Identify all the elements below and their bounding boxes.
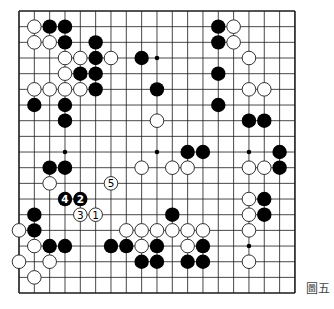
white-stone bbox=[242, 83, 256, 97]
white-stone bbox=[150, 224, 164, 238]
white-stone bbox=[74, 83, 88, 97]
white-stone bbox=[242, 208, 256, 222]
figure-caption: 圖五 bbox=[306, 279, 330, 296]
white-stone bbox=[242, 224, 256, 238]
black-stone bbox=[58, 98, 72, 112]
black-stone bbox=[73, 66, 87, 80]
black-stone bbox=[58, 239, 72, 253]
black-stone bbox=[211, 35, 225, 49]
white-stone bbox=[104, 51, 118, 65]
move-number: 2 bbox=[77, 193, 84, 205]
move-number: 3 bbox=[77, 209, 84, 221]
black-stone bbox=[196, 145, 210, 159]
white-stone bbox=[242, 255, 256, 269]
black-stone bbox=[88, 51, 102, 65]
star-point bbox=[155, 56, 160, 61]
white-stone bbox=[257, 161, 271, 175]
black-stone bbox=[211, 98, 225, 112]
black-stone bbox=[88, 35, 102, 49]
white-stone bbox=[135, 239, 149, 253]
white-stone bbox=[257, 83, 271, 97]
black-stone bbox=[58, 113, 72, 127]
white-stone bbox=[181, 239, 195, 253]
black-stone bbox=[42, 161, 56, 175]
black-stone bbox=[119, 239, 133, 253]
black-stone bbox=[165, 208, 179, 222]
star-point bbox=[63, 150, 68, 155]
white-stone bbox=[28, 36, 42, 50]
white-stone bbox=[135, 224, 149, 238]
white-stone bbox=[166, 161, 180, 175]
black-stone bbox=[58, 35, 72, 49]
white-stone bbox=[58, 83, 72, 97]
white-stone bbox=[28, 239, 42, 253]
black-stone bbox=[272, 145, 286, 159]
white-stone bbox=[227, 36, 241, 50]
black-stone bbox=[134, 255, 148, 269]
black-stone bbox=[150, 82, 164, 96]
white-stone bbox=[12, 255, 26, 269]
white-stone bbox=[135, 161, 149, 175]
black-stone bbox=[134, 51, 148, 65]
black-stone bbox=[180, 255, 194, 269]
star-point bbox=[155, 150, 160, 155]
white-stone bbox=[28, 271, 42, 285]
black-stone bbox=[104, 239, 118, 253]
black-stone bbox=[272, 161, 286, 175]
move-3: 3 bbox=[74, 208, 88, 222]
black-stone bbox=[42, 239, 56, 253]
white-stone bbox=[242, 51, 256, 65]
go-board: 12345 bbox=[0, 0, 334, 309]
black-stone bbox=[150, 255, 164, 269]
move-2: 2 bbox=[73, 192, 87, 206]
white-stone bbox=[150, 114, 164, 128]
black-stone bbox=[196, 239, 210, 253]
white-stone bbox=[227, 20, 241, 34]
black-stone bbox=[211, 66, 225, 80]
move-number: 5 bbox=[108, 177, 115, 189]
black-stone bbox=[257, 208, 271, 222]
black-stone bbox=[257, 113, 271, 127]
white-stone bbox=[166, 224, 180, 238]
white-stone bbox=[43, 255, 57, 269]
black-stone bbox=[242, 113, 256, 127]
black-stone bbox=[211, 19, 225, 33]
white-stone bbox=[196, 224, 210, 238]
white-stone bbox=[120, 224, 134, 238]
white-stone bbox=[181, 161, 195, 175]
star-point bbox=[247, 150, 252, 155]
black-stone bbox=[88, 66, 102, 80]
white-stone bbox=[12, 224, 26, 238]
black-stone bbox=[257, 192, 271, 206]
white-stone bbox=[28, 20, 42, 34]
white-stone bbox=[74, 51, 88, 65]
black-stone bbox=[196, 255, 210, 269]
black-stone bbox=[88, 82, 102, 96]
black-stone bbox=[27, 223, 41, 237]
black-stone bbox=[58, 19, 72, 33]
black-stone bbox=[27, 98, 41, 112]
white-stone bbox=[28, 83, 42, 97]
black-stone bbox=[58, 161, 72, 175]
black-stone bbox=[42, 19, 56, 33]
white-stone bbox=[58, 51, 72, 65]
white-stone bbox=[43, 36, 57, 50]
white-stone bbox=[43, 83, 57, 97]
white-stone bbox=[242, 161, 256, 175]
black-stone bbox=[180, 145, 194, 159]
white-stone bbox=[43, 177, 57, 191]
star-point bbox=[247, 244, 252, 249]
move-4: 4 bbox=[58, 192, 72, 206]
black-stone bbox=[150, 239, 164, 253]
move-number: 1 bbox=[92, 209, 99, 221]
white-stone bbox=[58, 67, 72, 81]
black-stone bbox=[27, 208, 41, 222]
move-1: 1 bbox=[89, 208, 103, 222]
move-5: 5 bbox=[104, 177, 118, 191]
white-stone bbox=[242, 192, 256, 206]
move-number: 4 bbox=[61, 193, 68, 205]
white-stone bbox=[181, 224, 195, 238]
